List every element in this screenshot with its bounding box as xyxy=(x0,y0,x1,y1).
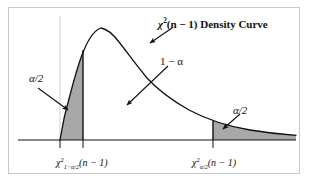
upper-critical-value-label: χ2α/2(n − 1) xyxy=(192,157,236,171)
title-remainder: (n − 1) Density Curve xyxy=(167,18,268,30)
left-tail-area-label: α/2 xyxy=(29,73,43,84)
density-curve-title: χ2(n − 1) Density Curve xyxy=(158,18,268,30)
degrees-of-freedom: (n − 1) xyxy=(208,157,236,168)
center-area-leader-arrow xyxy=(127,66,168,105)
density-curve xyxy=(60,28,296,140)
chi-exponent: 2 xyxy=(60,156,63,163)
chi-square-figure: χ2(n − 1) Density Curve 1 − α α/2 α/2 χ2… xyxy=(0,0,309,183)
left-tail-leader-arrow xyxy=(38,88,68,110)
lower-critical-value-label: χ21−α/2(n − 1) xyxy=(56,157,107,171)
degrees-of-freedom: (n − 1) xyxy=(79,157,107,168)
chi-subscript: α/2 xyxy=(200,163,208,170)
center-area-label: 1 − α xyxy=(160,56,183,67)
chi-exponent: 2 xyxy=(196,156,199,163)
right-tail-area-label: α/2 xyxy=(233,105,247,116)
title-leader-arrow xyxy=(150,28,172,43)
chi-subscript: 1−α/2 xyxy=(64,163,79,170)
